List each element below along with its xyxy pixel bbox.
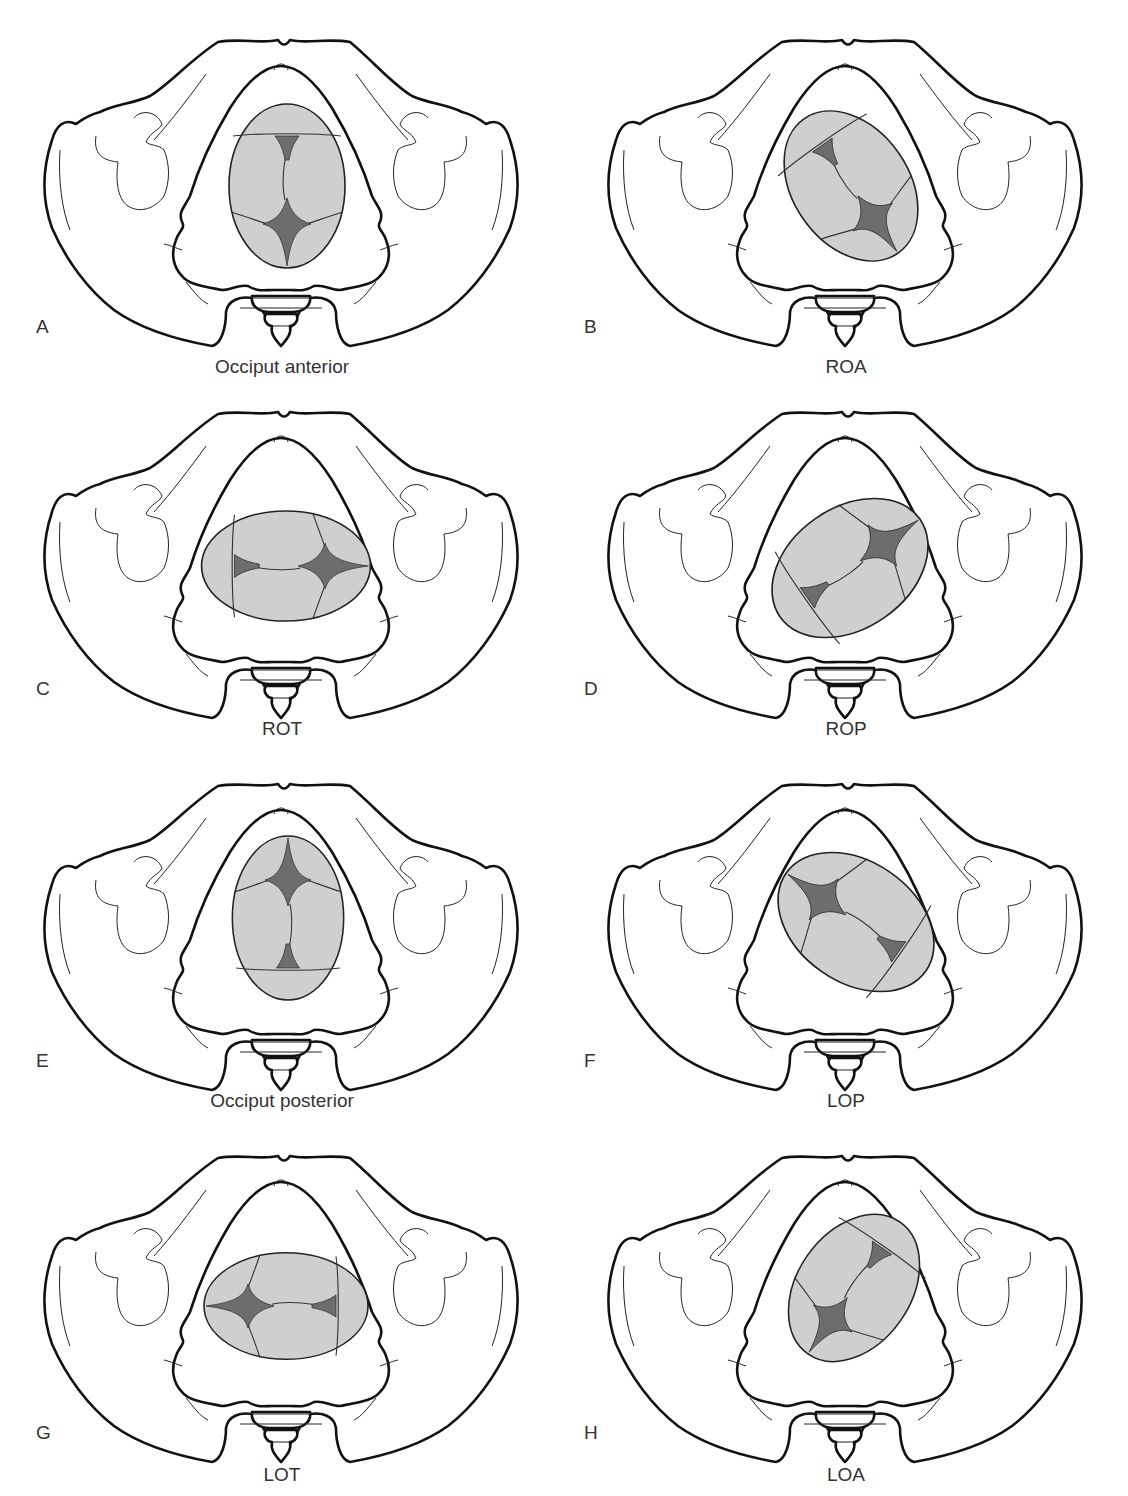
panel-letter-g: G <box>36 1422 51 1444</box>
fetal-head-a <box>229 104 345 268</box>
panel-caption-g: LOT <box>0 1464 564 1486</box>
panel-letter-c: C <box>36 678 50 700</box>
pelvis-diagram-g <box>0 1116 564 1490</box>
panel-letter-e: E <box>36 1050 49 1072</box>
panel-letter-f: F <box>584 1050 596 1072</box>
panel-c: C ROT <box>0 372 564 746</box>
panel-g: G LOT <box>0 1116 564 1490</box>
pelvis-diagram-b <box>564 0 1128 374</box>
panel-caption-e: Occiput posterior <box>0 1090 564 1112</box>
panel-h: H LOA <box>564 1116 1128 1490</box>
panel-caption-c: ROT <box>0 718 564 740</box>
panel-caption-d: ROP <box>564 718 1128 740</box>
panel-a: A Occiput anterior <box>0 0 564 374</box>
panel-letter-h: H <box>584 1422 598 1444</box>
panel-caption-f: LOP <box>564 1090 1128 1112</box>
pelvis-diagram-e <box>0 744 564 1118</box>
panel-b: B ROA <box>564 0 1128 374</box>
fetal-head-c <box>202 511 371 621</box>
panel-letter-d: D <box>584 678 598 700</box>
fetal-head-g <box>204 1253 368 1360</box>
pelvis-diagram-h <box>564 1116 1128 1490</box>
pelvis-diagram-c <box>0 372 564 746</box>
pelvis-diagram-a <box>0 0 564 374</box>
panel-d: D ROP <box>564 372 1128 746</box>
panel-e: E Occiput posterior <box>0 744 564 1118</box>
panel-letter-a: A <box>36 316 49 338</box>
pelvis-diagram-d <box>564 372 1128 746</box>
panel-letter-b: B <box>584 316 597 338</box>
fetal-head-e <box>232 836 343 1000</box>
pelvis-diagram-f <box>564 744 1128 1118</box>
panel-caption-h: LOA <box>564 1464 1128 1486</box>
panel-f: F LOP <box>564 744 1128 1118</box>
